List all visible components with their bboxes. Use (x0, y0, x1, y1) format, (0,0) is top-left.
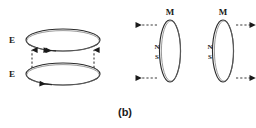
left-m-south-label: S (155, 53, 159, 61)
right-m-south-label: S (208, 53, 212, 61)
right-m-north-label: N (207, 43, 212, 51)
left-m-label: M (166, 7, 175, 17)
right-m-label: M (219, 7, 228, 17)
figure-canvas: E E M N S M N S (0, 0, 256, 128)
figure-container: E E M N S M N S (0, 0, 256, 128)
upper-e-label: E (9, 35, 15, 45)
lower-e-label: E (9, 69, 15, 79)
upper-e-loop-direction-arrow-shaft (46, 50, 56, 51)
left-m-north-label: N (154, 43, 159, 51)
figure-caption: (b) (118, 106, 132, 118)
